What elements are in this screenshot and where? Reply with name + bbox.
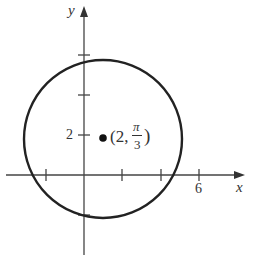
y-axis-label: y [68, 3, 75, 18]
diagram-canvas: y x 6 2 (2, π 3 ) [0, 0, 264, 264]
x-axis-label: x [236, 180, 243, 195]
plot-svg [0, 0, 264, 264]
point-marker [99, 134, 107, 142]
y-axis-arrow-icon [80, 6, 88, 17]
point-label-open: (2, [110, 128, 128, 145]
x-tick-label-6: 6 [195, 182, 202, 196]
x-axis-arrow-icon [234, 171, 245, 179]
point-label-close: ) [144, 126, 150, 145]
point-label-numerator: π [133, 119, 140, 135]
point-label-denominator: 3 [134, 137, 141, 153]
y-tick-label-2: 2 [66, 128, 73, 142]
fraction-bar [132, 135, 142, 136]
